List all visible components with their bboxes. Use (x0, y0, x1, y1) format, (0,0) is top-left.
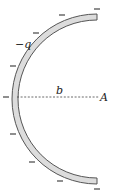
charge-label: −q (15, 38, 31, 51)
radius-label: b (56, 84, 63, 97)
charged-arc-diagram: −q b A (0, 0, 116, 192)
point-a-label: A (99, 91, 108, 104)
